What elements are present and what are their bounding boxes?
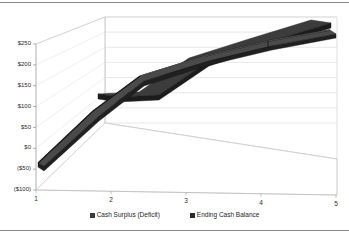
three-d-line-chart: $250 $200 $150 $100 $50 $0 ($50) ($100) … bbox=[0, 3, 349, 227]
y-tick-label-0: $0 bbox=[0, 144, 31, 151]
legend-swatch-icon bbox=[190, 213, 195, 218]
y-axis-ticks bbox=[33, 44, 36, 190]
chart-legend: Cash Surplus (Deficit) Ending Cash Balan… bbox=[0, 208, 349, 222]
x-tick-label-3: 3 bbox=[178, 197, 194, 204]
x-tick-label-1: 1 bbox=[28, 195, 44, 202]
y-tick-label-250: $250 bbox=[0, 40, 31, 47]
bottom-divider-rule bbox=[0, 230, 349, 231]
y-tick-label-100: $100 bbox=[0, 103, 31, 110]
chart-canvas bbox=[0, 3, 349, 227]
y-tick-label-neg50: ($50) bbox=[0, 165, 31, 172]
y-tick-label-50: $50 bbox=[0, 124, 31, 131]
y-tick-label-neg100: ($100) bbox=[0, 186, 31, 193]
x-tick-label-5: 5 bbox=[328, 200, 344, 207]
y-tick-label-200: $200 bbox=[0, 61, 31, 68]
legend-item-cash-surplus-deficit[interactable]: Cash Surplus (Deficit) bbox=[90, 211, 160, 219]
x-tick-label-4: 4 bbox=[253, 199, 269, 206]
y-tick-label-150: $150 bbox=[0, 82, 31, 89]
legend-label-ending-cash-balance: Ending Cash Balance bbox=[197, 211, 260, 219]
x-tick-label-2: 2 bbox=[103, 196, 119, 203]
legend-label-cash-surplus-deficit: Cash Surplus (Deficit) bbox=[97, 211, 160, 219]
legend-swatch-icon bbox=[90, 213, 95, 218]
chart-screenshot: $250 $200 $150 $100 $50 $0 ($50) ($100) … bbox=[0, 0, 349, 239]
legend-item-ending-cash-balance[interactable]: Ending Cash Balance bbox=[190, 211, 260, 219]
